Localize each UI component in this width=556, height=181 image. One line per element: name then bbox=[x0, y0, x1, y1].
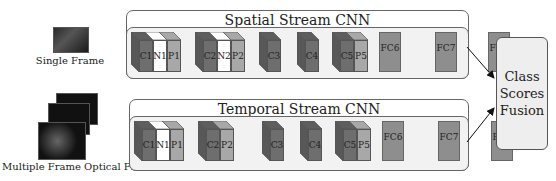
fusion-arrows bbox=[0, 0, 556, 181]
